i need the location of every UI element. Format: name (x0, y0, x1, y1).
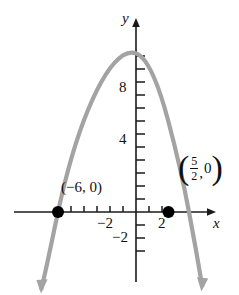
second-coordinate: 0 (204, 161, 212, 176)
left-paren: ( (178, 156, 189, 180)
x-tick-label-neg2: −2 (97, 216, 113, 231)
graph-figure: y x 8 4 −2 −2 2 (−6, 0) ( 5 2 , 0 ) (0, 0, 239, 295)
root-point-left[interactable] (52, 206, 64, 218)
fraction-denominator: 2 (190, 170, 198, 182)
right-arrowhead-icon (197, 277, 208, 292)
y-axis-arrowhead (132, 18, 140, 27)
left-arrowhead-icon (36, 279, 47, 293)
y-tick-label-8: 8 (119, 80, 127, 95)
fraction-five-halves: 5 2 (190, 155, 198, 182)
right-root-label: ( 5 2 , 0 ) (178, 155, 223, 182)
y-axis-label: y (122, 11, 129, 26)
fraction-numerator: 5 (190, 155, 198, 167)
coordinate-plane (0, 0, 239, 295)
left-root-label: (−6, 0) (61, 180, 102, 195)
x-axis-label: x (213, 216, 220, 231)
y-tick-label-neg2: −2 (112, 230, 128, 245)
coordinate-comma: , (199, 166, 203, 182)
y-axis-ticks (136, 56, 145, 251)
y-tick-label-4: 4 (119, 132, 127, 147)
right-paren: ) (212, 156, 223, 180)
x-tick-label-2: 2 (158, 216, 166, 231)
